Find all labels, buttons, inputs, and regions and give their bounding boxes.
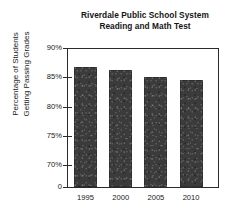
bar-2000: [109, 70, 132, 187]
x-tick-label-2010: 2010: [183, 193, 200, 202]
y-axis-label-line-1: Percentage of Students: [11, 0, 22, 149]
y-tick-mark: [63, 136, 72, 137]
y-tick-mark: [63, 77, 72, 78]
y-tick-mark: [63, 187, 72, 188]
y-tick-label: 85%: [47, 73, 62, 81]
plot-area: 90%85%80%75%70%0 1995200020052010: [67, 48, 219, 188]
y-tick-mark: [63, 48, 72, 49]
x-tick-label-2005: 2005: [147, 193, 164, 202]
y-tick-label: 70%: [47, 161, 62, 169]
y-tick-label: 0: [58, 183, 62, 191]
y-axis-label: Percentage of Students Getting Passing G…: [11, 0, 39, 149]
y-tick-mark: [63, 165, 72, 166]
chart-title-line-1: Riverdale Public School System: [52, 10, 238, 21]
y-tick-label: 90%: [47, 44, 62, 52]
y-tick-label: 80%: [47, 103, 62, 111]
y-axis-line: [67, 48, 68, 188]
chart-title: Riverdale Public School System Reading a…: [52, 10, 238, 32]
x-axis-line: [67, 187, 219, 188]
y-tick-label: 75%: [47, 132, 62, 140]
x-tick-label-2000: 2000: [112, 193, 129, 202]
bar-2010: [180, 80, 203, 187]
plot-frame-top: [67, 48, 219, 49]
y-axis-label-line-2: Getting Passing Grades: [22, 0, 33, 149]
bar-chart-figure: Riverdale Public School System Reading a…: [0, 0, 240, 213]
y-tick-mark: [63, 107, 72, 108]
bar-1995: [74, 67, 97, 187]
x-tick-label-1995: 1995: [77, 193, 94, 202]
chart-title-line-2: Reading and Math Test: [52, 21, 238, 32]
plot-frame-right: [218, 48, 219, 188]
bar-2005: [144, 77, 167, 187]
